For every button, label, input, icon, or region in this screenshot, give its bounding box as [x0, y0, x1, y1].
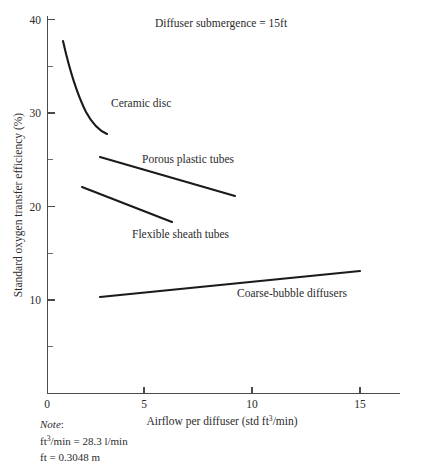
x-tick-label-0: 0 — [44, 398, 50, 410]
x-axis-title-main: Airflow per diffuser (std ft — [146, 415, 269, 428]
x-axis-ticks — [144, 387, 360, 394]
series-label-flexible-sheath-tubes: Flexible sheath tubes — [132, 228, 230, 240]
series-label-coarse-bubble-diffusers: Coarse-bubble diffusers — [237, 287, 347, 299]
x-tick-label-15: 15 — [354, 398, 366, 410]
x-tick-label-5: 5 — [141, 398, 147, 410]
y-tick-label-30: 30 — [30, 107, 42, 119]
y-tick-label-40: 40 — [30, 14, 42, 26]
y-tick-labels: 40 30 20 10 — [30, 14, 42, 307]
x-axis-title: Airflow per diffuser (std ft3/min) — [146, 414, 297, 428]
x-tick-labels: 0 5 10 15 — [44, 398, 366, 410]
x-tick-label-10: 10 — [246, 398, 258, 410]
series-label-porous-plastic-tubes: Porous plastic tubes — [142, 153, 235, 166]
note-heading: Note: — [39, 418, 64, 430]
y-tick-label-10: 10 — [30, 294, 42, 306]
y-axis-title: Standard oxygen transfer efficiency (%) — [12, 113, 25, 298]
chart-figure: 40 30 20 10 0 5 10 15 Standard oxygen tr… — [0, 0, 421, 469]
note-heading-suffix: : — [61, 418, 64, 430]
note-line-1-pre: ft — [40, 435, 47, 447]
x-axis-title-tail: /min) — [273, 415, 298, 428]
note-heading-text: Note — [39, 418, 61, 430]
note-line-1: ft3/min = 28.3 l/min — [40, 434, 128, 447]
series-line-flexible-sheath-tubes — [82, 187, 172, 222]
y-tick-label-20: 20 — [30, 201, 42, 213]
note-block: Note: ft3/min = 28.3 l/min ft = 0.3048 m — [39, 418, 128, 463]
axes-group — [48, 16, 401, 394]
note-line-1-post: /min = 28.3 l/min — [51, 435, 129, 447]
chart-svg: 40 30 20 10 0 5 10 15 Standard oxygen tr… — [0, 0, 421, 469]
note-line-2: ft = 0.3048 m — [40, 451, 100, 463]
series-label-ceramic-disc: Ceramic disc — [111, 97, 171, 109]
chart-annotation: Diffuser submergence = 15ft — [155, 17, 288, 30]
series-line-ceramic-disc — [63, 41, 107, 134]
